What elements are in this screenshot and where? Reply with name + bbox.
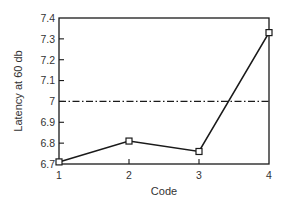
data-point-marker [126,138,132,144]
x-axis-title: Code [151,185,177,197]
y-axis-title: Latency at 60 db [12,50,24,131]
x-axis-ticks: 1234 [56,159,272,181]
x-tick-label: 4 [266,169,272,181]
y-tick-label: 7 [49,95,55,107]
y-axis-ticks: 6.76.86.977.17.27.37.4 [40,12,64,170]
data-point-marker [56,159,62,165]
data-series-latency [56,30,272,165]
y-tick-label: 6.8 [40,137,55,149]
y-tick-label: 6.9 [40,116,55,128]
data-point-marker [196,148,202,154]
plot-frame [59,18,269,164]
x-tick-label: 3 [196,169,202,181]
y-tick-label: 6.7 [40,158,55,170]
x-tick-label: 2 [126,169,132,181]
data-point-marker [266,30,272,36]
x-tick-label: 1 [56,169,62,181]
y-tick-label: 7.3 [40,33,55,45]
line-chart: 6.76.86.977.17.27.37.4 1234 Code Latency… [0,0,285,209]
y-tick-label: 7.2 [40,54,55,66]
y-tick-label: 7.1 [40,74,55,86]
y-tick-label: 7.4 [40,12,55,24]
